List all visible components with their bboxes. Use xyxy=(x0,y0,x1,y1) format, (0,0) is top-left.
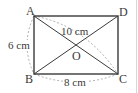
right-border xyxy=(136,0,137,93)
point-label-a: A xyxy=(26,5,35,17)
diagonal-length-label: 10 cm xyxy=(60,26,89,37)
point-label-o: O xyxy=(72,50,81,62)
point-label-d: D xyxy=(119,6,128,18)
point-label-b: B xyxy=(25,73,33,85)
side-ab-length-label: 6 cm xyxy=(7,40,31,51)
side-bc-length-label: 8 cm xyxy=(63,77,87,88)
point-label-c: C xyxy=(119,73,127,85)
